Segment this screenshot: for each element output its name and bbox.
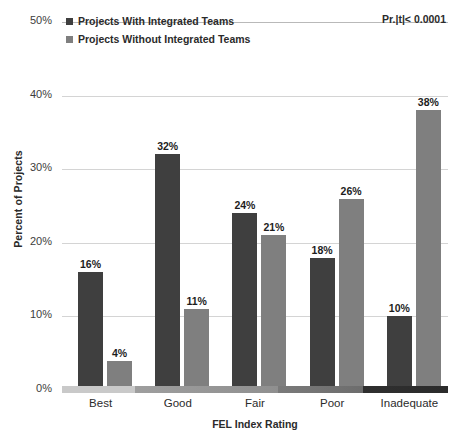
y-tick-label: 0% [8, 382, 52, 394]
bar-group: 16%4% [62, 22, 139, 390]
legend-item: Projects With Integrated Teams [66, 13, 250, 29]
legend: Projects With Integrated TeamsProjects W… [66, 13, 250, 49]
bar-group: 24%21% [216, 22, 293, 390]
bar-value-label: 24% [234, 199, 255, 211]
bar-value-label: 38% [418, 96, 439, 108]
legend-label: Projects Without Integrated Teams [78, 33, 250, 45]
legend-swatch-icon [66, 18, 73, 25]
y-tick-label: 10% [8, 308, 52, 320]
bar-value-label: 11% [186, 295, 206, 307]
y-tick-label: 30% [8, 161, 52, 173]
bar-value-label: 21% [263, 221, 284, 233]
bar-group: 18%26% [294, 22, 371, 390]
bar-chart: Percent of Projects 0%10%20%30%40%50% 16… [0, 0, 452, 443]
x-tick-label: Poor [294, 397, 371, 409]
bar-value-label: 18% [312, 244, 333, 256]
bar-group: 10%38% [371, 22, 448, 390]
bar-value-label: 26% [341, 185, 362, 197]
legend-item: Projects Without Integrated Teams [66, 31, 250, 47]
bar: 10% [387, 316, 412, 390]
legend-swatch-icon [66, 36, 73, 43]
bar-group: 32%11% [139, 22, 216, 390]
x-tick-label: Fair [216, 397, 293, 409]
bar-value-label: 16% [80, 258, 101, 270]
x-axis-baseline [62, 386, 448, 393]
bar: 24% [232, 213, 257, 390]
p-value-annotation: Pr.|t|< 0.0001 [382, 13, 446, 25]
bar: 26% [339, 199, 364, 390]
bar-value-label: 4% [112, 347, 127, 359]
bar: 32% [155, 154, 180, 390]
y-tick-label: 50% [8, 14, 52, 26]
y-tick-label: 20% [8, 235, 52, 247]
x-axis-title: FEL Index Rating [62, 418, 448, 430]
bar: 38% [416, 110, 441, 390]
bar-value-label: 10% [389, 302, 410, 314]
bar: 21% [261, 235, 286, 390]
legend-label: Projects With Integrated Teams [78, 15, 234, 27]
bar: 11% [184, 309, 209, 390]
x-tick-label: Best [62, 397, 139, 409]
x-tick-label: Inadequate [371, 397, 448, 409]
bar: 16% [78, 272, 103, 390]
bar: 18% [310, 258, 335, 390]
x-tick-label: Good [139, 397, 216, 409]
bar-value-label: 32% [157, 140, 178, 152]
plot-area: 16%4%32%11%24%21%18%26%10%38% [62, 22, 448, 390]
y-tick-label: 40% [8, 88, 52, 100]
y-axis-title: Percent of Projects [12, 119, 24, 279]
